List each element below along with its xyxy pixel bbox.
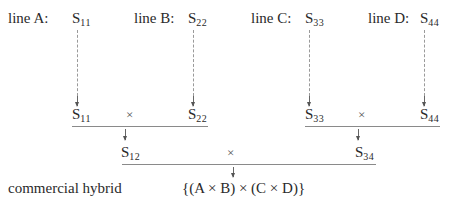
parent-s22: S22 (188, 10, 207, 31)
arrow-down-icon (125, 129, 126, 140)
arrow-down-icon (193, 96, 194, 106)
cross-s22: S22 (188, 106, 207, 127)
final-hybrid-formula: {(A × B) × (C × D)} (182, 180, 305, 196)
arrow-down-icon (77, 96, 78, 106)
cross-symbol-final: × (227, 146, 234, 160)
dashed-connector-d (424, 30, 425, 96)
cross-s44: S44 (420, 106, 439, 127)
line-c-label: line C: (251, 10, 291, 26)
commercial-hybrid-label: commercial hybrid (8, 180, 122, 196)
arrow-down-icon (358, 129, 359, 140)
cross-line-cd (305, 126, 440, 127)
arrow-down-icon (309, 96, 310, 106)
parent-s44: S44 (420, 10, 439, 31)
dashed-connector-b (193, 30, 194, 96)
cross-s33: S33 (305, 106, 324, 127)
cross-line-final (122, 164, 376, 165)
parent-s11: S11 (72, 10, 91, 31)
line-d-label: line D: (368, 10, 409, 26)
cross-line-ab (72, 126, 208, 127)
cross-symbol-cd: × (358, 108, 365, 122)
arrow-down-icon (233, 167, 234, 177)
arrow-down-icon (424, 96, 425, 106)
line-a-label: line A: (8, 10, 48, 26)
cross-s11: S11 (72, 106, 91, 127)
line-b-label: line B: (134, 10, 174, 26)
parent-s33: S33 (305, 10, 324, 31)
single-cross-s12: S12 (121, 144, 140, 165)
dashed-connector-c (309, 30, 310, 96)
dashed-connector-a (77, 30, 78, 96)
single-cross-s34: S34 (355, 144, 374, 165)
cross-symbol-ab: × (126, 108, 133, 122)
